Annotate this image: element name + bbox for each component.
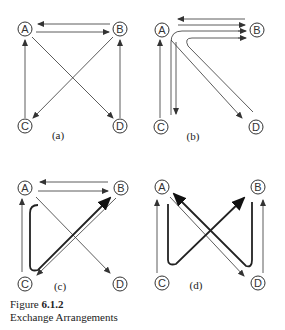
node-a: A [18,181,32,195]
panel-label-d: (d) [190,279,203,292]
figure-number-line: Figure 6.1.2 [10,298,118,311]
svg-text:B: B [117,182,124,194]
svg-text:B: B [254,181,261,193]
svg-text:C: C [157,121,165,133]
node-b: B [114,181,128,195]
panel-d: A B C D (d) [155,180,265,292]
panel-a: A B C D (a) [18,22,127,142]
node-b: B [250,23,264,37]
panel-c: A B C D (c) [18,181,128,293]
node-d: D [113,119,127,133]
node-a: A [155,23,169,37]
node-c: C [154,120,168,134]
panel-label-a: (a) [52,129,65,142]
svg-text:C: C [21,120,29,132]
figure-caption: Figure 6.1.2 Exchange Arrangements [10,298,118,324]
node-d: D [249,120,263,134]
panel-b: A B C D (b) [154,19,264,143]
svg-text:D: D [252,121,260,133]
svg-text:D: D [116,278,124,290]
panel-label-c: (c) [54,280,67,293]
svg-text:C: C [158,277,166,289]
svg-text:A: A [158,24,166,36]
node-a: A [155,180,169,194]
exchange-arrangements-diagram: A B C D (a) A B C D (b) A B C D (c) [0,0,285,330]
figure-number: 6.1.2 [41,298,63,310]
svg-text:B: B [253,24,260,36]
node-a: A [18,22,32,36]
svg-text:C: C [21,278,29,290]
svg-text:B: B [116,23,123,35]
svg-text:A: A [158,181,166,193]
node-b: B [113,22,127,36]
svg-text:D: D [116,120,124,132]
figure-title: Exchange Arrangements [10,311,118,324]
svg-text:D: D [254,277,262,289]
node-b: B [251,180,265,194]
svg-text:A: A [21,182,29,194]
node-c: C [18,277,32,291]
node-c: C [18,119,32,133]
node-d: D [113,277,127,291]
node-c: C [155,276,169,290]
svg-text:A: A [21,23,29,35]
panel-label-b: (b) [187,130,200,143]
node-d: D [251,276,265,290]
